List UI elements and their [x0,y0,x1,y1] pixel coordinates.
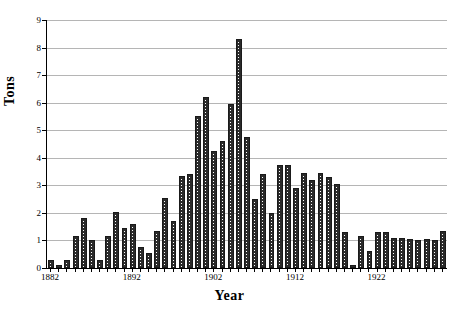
x-axis-tick-mark [417,269,418,272]
y-axis-tick-label: 6 [28,98,41,107]
bar [326,177,332,268]
bar [358,236,364,268]
x-axis-tick-mark [344,269,345,272]
bar [285,165,291,268]
x-axis-tick-label: 1912 [286,273,304,282]
bar [391,238,397,268]
x-axis-tick-label: 1902 [204,273,222,282]
x-axis-tick-mark [107,269,108,272]
bar [318,173,324,268]
y-axis-tick-labels: 0123456789 [28,20,41,268]
x-axis-tick-mark [230,269,231,272]
bar [424,239,430,268]
bar [81,218,87,268]
x-axis-tick-mark [270,269,271,272]
bar [236,39,242,268]
x-axis-tick-label: 1882 [41,273,59,282]
x-axis-tick-label: 1922 [368,273,386,282]
bar-chart: Tons 0123456789 18821892190219121922 Yea… [0,0,459,311]
bar [260,174,266,268]
x-axis-tick-mark [311,269,312,272]
bar [383,232,389,268]
bar [187,174,193,268]
bar [130,224,136,268]
bar [277,165,283,268]
x-axis-tick-mark [434,269,435,272]
x-axis-tick-mark [173,269,174,272]
x-axis-title: Year [0,288,459,304]
plot-area [46,20,447,269]
x-axis-tick-mark [75,269,76,272]
bar [64,260,70,268]
bar [367,251,373,268]
x-axis-tick-mark [279,269,280,272]
bar [228,104,234,268]
bar [97,260,103,268]
y-axis-tick-label: 4 [28,153,41,162]
bar [211,151,217,268]
x-axis-tick-mark [319,269,320,272]
bar [334,184,340,268]
bar [252,199,258,268]
bar [89,240,95,268]
x-axis-tick-mark [254,269,255,272]
x-axis-tick-mark [66,269,67,272]
bar [73,236,79,268]
bar [375,232,381,268]
x-axis-tick-mark [197,269,198,272]
bar [105,236,111,268]
x-axis-tick-mark [83,269,84,272]
y-axis-tick-label: 9 [28,16,41,25]
x-axis-tick-mark [91,269,92,272]
bar [56,265,62,268]
bar [342,232,348,268]
x-axis-tick-mark [189,269,190,272]
bar [138,247,144,268]
bar [350,265,356,268]
x-axis-tick-mark [352,269,353,272]
bar [440,231,446,268]
x-axis-tick-mark [409,269,410,272]
x-axis-tick-mark [360,269,361,272]
y-axis-tick-label: 7 [28,71,41,80]
bar [399,238,405,268]
y-axis-title: Tons [2,76,18,106]
x-axis-tick-mark [426,269,427,272]
x-axis-tick-mark [442,269,443,272]
bar [154,231,160,268]
bar [293,188,299,268]
bar [309,180,315,268]
x-axis-tick-labels: 18821892190219121922 [46,273,446,287]
x-axis-tick-mark [262,269,263,272]
bar [203,97,209,268]
x-axis-tick-mark [328,269,329,272]
x-axis-tick-mark [393,269,394,272]
x-axis-tick-mark [115,269,116,272]
bar [179,176,185,268]
y-axis-tick-label: 2 [28,208,41,217]
x-axis-tick-mark [99,269,100,272]
x-axis-tick-mark [401,269,402,272]
bar [407,239,413,268]
bar [244,137,250,268]
bar [195,116,201,268]
y-axis-tick-label: 3 [28,181,41,190]
x-axis-tick-mark [148,269,149,272]
y-axis-tick-label: 8 [28,43,41,52]
bar [171,221,177,268]
bar [48,260,54,268]
x-axis-tick-mark [164,269,165,272]
bar [122,228,128,268]
y-axis-tick-label: 1 [28,236,41,245]
y-axis-tick-label: 0 [28,264,41,273]
bar [415,240,421,268]
x-axis-tick-label: 1892 [123,273,141,282]
x-axis-tick-mark [336,269,337,272]
bars-layer [47,20,447,268]
x-axis-tick-mark [181,269,182,272]
bar [162,198,168,268]
y-axis-tick-label: 5 [28,126,41,135]
x-axis-tick-mark [246,269,247,272]
x-axis-tick-mark [238,269,239,272]
bar [146,253,152,268]
